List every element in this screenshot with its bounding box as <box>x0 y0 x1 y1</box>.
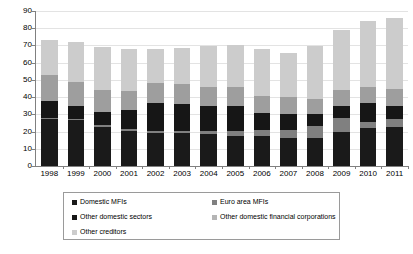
bar-segment <box>227 106 243 131</box>
legend-item[interactable]: Domestic MFIs <box>72 198 127 206</box>
bar-segment <box>147 49 163 83</box>
bar-stack <box>121 49 137 166</box>
bar-segment <box>121 49 137 91</box>
legend-item[interactable]: Other domestic financial corporations <box>212 213 336 221</box>
x-axis-tick-label: 1998 <box>36 169 63 179</box>
bar-group[interactable] <box>307 11 323 166</box>
legend-swatch-icon <box>72 200 77 205</box>
bar-group[interactable] <box>94 11 110 166</box>
bar-segment <box>200 46 216 86</box>
y-axis-tick-label: 80 <box>10 24 32 32</box>
y-axis-tick-label: 40 <box>10 93 32 101</box>
legend-swatch-icon <box>72 230 77 235</box>
bar-stack <box>386 18 402 166</box>
legend-swatch-icon <box>212 200 217 205</box>
bar-group[interactable] <box>227 11 243 166</box>
bar-segment <box>94 90 110 112</box>
bar-segment <box>174 104 190 131</box>
bar-segment <box>121 91 137 110</box>
bar-segment <box>333 132 349 166</box>
bar-segment <box>333 30 349 90</box>
bar-segment <box>41 40 57 74</box>
bar-segment <box>307 99 323 114</box>
bar-stack <box>94 47 110 166</box>
bar-group[interactable] <box>333 11 349 166</box>
plot-area: 0102030405060708090 19981999200020012002… <box>0 0 413 182</box>
bar-group[interactable] <box>200 11 216 166</box>
bar-stack <box>307 46 323 166</box>
bar-segment <box>254 136 270 166</box>
bar-segment <box>386 127 402 166</box>
bar-group[interactable] <box>121 11 137 166</box>
bar-segment <box>254 49 270 96</box>
bar-segment <box>386 89 402 105</box>
bar-stack <box>360 21 376 166</box>
bar-segment <box>360 128 376 166</box>
bar-stack <box>147 49 163 166</box>
legend-label: Euro area MFIs <box>220 198 268 206</box>
bar-segment <box>307 46 323 99</box>
bar-segment <box>333 118 349 133</box>
bar-segment <box>307 114 323 126</box>
bar-segment <box>227 45 243 86</box>
bar-segment <box>280 97 296 114</box>
chart-container: 0102030405060708090 19981999200020012002… <box>0 0 413 254</box>
y-axis-tick-label: 60 <box>10 59 32 67</box>
bar-segment <box>227 136 243 166</box>
bar-stack <box>227 45 243 166</box>
legend-swatch-icon <box>212 215 217 220</box>
bar-segment <box>174 84 190 104</box>
bar-stack <box>174 48 190 166</box>
bar-group[interactable] <box>174 11 190 166</box>
bar-group[interactable] <box>254 11 270 166</box>
legend-label: Other domestic sectors <box>80 213 152 221</box>
bar-segment <box>280 114 296 130</box>
legend-label: Domestic MFIs <box>80 198 127 206</box>
bar-segment <box>41 119 57 166</box>
bar-group[interactable] <box>147 11 163 166</box>
bar-segment <box>254 96 270 112</box>
bar-segment <box>94 127 110 166</box>
bar-segment <box>333 90 349 106</box>
bar-segment <box>94 112 110 125</box>
bar-segment <box>68 106 84 119</box>
bar-segment <box>280 130 296 139</box>
x-axis-tick-label: 2001 <box>116 169 143 179</box>
bar-segment <box>41 75 57 101</box>
bar-group[interactable] <box>280 11 296 166</box>
x-axis-tick-label: 2007 <box>275 169 302 179</box>
bar-group[interactable] <box>68 11 84 166</box>
bar-segment <box>121 131 137 166</box>
legend-item[interactable]: Other domestic sectors <box>72 213 152 221</box>
legend-item[interactable]: Other creditors <box>72 228 126 236</box>
bars-layer <box>36 11 408 166</box>
y-axis-tick-label: 30 <box>10 110 32 118</box>
bar-segment <box>280 138 296 166</box>
bar-stack <box>68 42 84 166</box>
legend-label: Other creditors <box>80 228 126 236</box>
bar-segment <box>386 18 402 89</box>
bar-segment <box>200 106 216 131</box>
bar-segment <box>68 120 84 167</box>
bar-segment <box>147 103 163 131</box>
bar-stack <box>41 40 57 166</box>
bar-group[interactable] <box>360 11 376 166</box>
bar-segment <box>94 47 110 90</box>
bar-group[interactable] <box>41 11 57 166</box>
y-axis-tick-label: 20 <box>10 128 32 136</box>
bar-segment <box>174 133 190 166</box>
bar-group[interactable] <box>386 11 402 166</box>
x-axis-tick-label: 2006 <box>249 169 276 179</box>
bar-segment <box>333 106 349 118</box>
bar-segment <box>307 138 323 166</box>
x-axis-tick-labels: 1998199920002001200220032004200520062007… <box>36 169 408 181</box>
y-axis-tick-label: 50 <box>10 76 32 84</box>
x-axis-tick-label: 2005 <box>222 169 249 179</box>
bar-segment <box>41 101 57 118</box>
legend-item[interactable]: Euro area MFIs <box>212 198 268 206</box>
bar-segment <box>280 53 296 97</box>
x-axis-tick-label: 1999 <box>63 169 90 179</box>
y-axis-tick-label: 70 <box>10 41 32 49</box>
y-axis-tick-labels: 0102030405060708090 <box>10 8 32 166</box>
bar-segment <box>254 113 270 130</box>
